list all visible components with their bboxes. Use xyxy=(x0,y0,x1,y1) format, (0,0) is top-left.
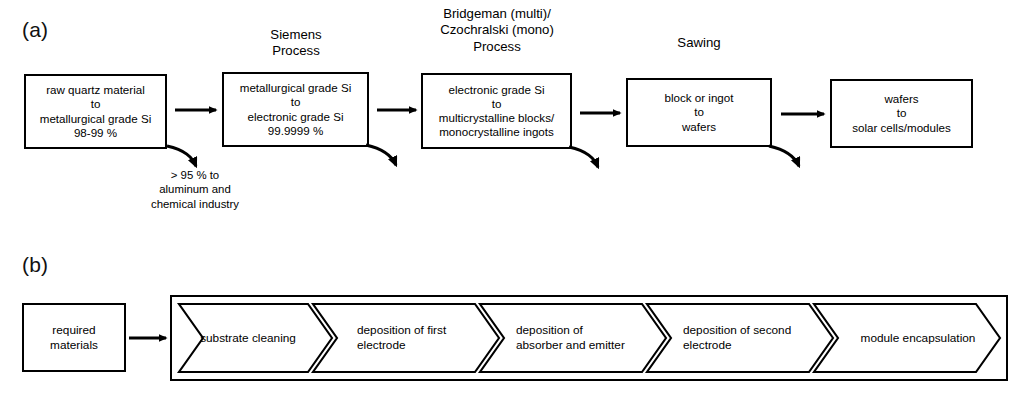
box-line: wafers xyxy=(665,120,734,134)
chevron-label-substrate-cleaning: substrate cleaning xyxy=(183,331,313,346)
annotation-line: aluminum and xyxy=(120,182,270,196)
box-line: metallurgical grade Si xyxy=(240,81,351,95)
chevron-label-second-electrode: deposition of second electrode xyxy=(683,323,848,353)
process-box-raw-quartz: raw quartz material to metallurgical gra… xyxy=(24,74,167,149)
chevron-label-line: module encapsulation xyxy=(848,331,988,346)
box-line: electronic grade Si xyxy=(240,110,351,124)
chevron-label-line: substrate cleaning xyxy=(183,331,313,346)
process-box-electronic-grade: electronic grade Si to multicrystalline … xyxy=(421,73,572,149)
box-line: block or ingot xyxy=(665,91,734,105)
box-line: metallurgical grade Si xyxy=(40,112,151,126)
process-box-wafers: wafers to solar cells/modules xyxy=(830,79,973,148)
panel-b-label: (b) xyxy=(22,254,48,276)
panel-a-label: (a) xyxy=(22,19,48,41)
chevron-label-line: electrode xyxy=(683,338,848,353)
box-line: raw quartz material xyxy=(40,83,151,97)
caption-bridgeman-czochralski-process: Bridgeman (multi)/ Czochralski (mono) Pr… xyxy=(412,6,582,55)
chevron-label-line: absorber and emitter xyxy=(516,338,676,353)
figure-canvas: (a) Siemens Process Bridgeman (multi)/ C… xyxy=(0,0,1025,402)
process-box-metallurgical-grade: metallurgical grade Si to electronic gra… xyxy=(222,72,369,147)
chevron-label-absorber-emitter: deposition of absorber and emitter xyxy=(516,323,676,353)
annotation-byproduct-note: > 95 % to aluminum and chemical industry xyxy=(120,168,270,211)
caption-line: Czochralski (mono) xyxy=(412,22,582,38)
caption-line: Bridgeman (multi)/ xyxy=(412,6,582,22)
chevron-label-line: deposition of first xyxy=(357,323,507,338)
box-line: solar cells/modules xyxy=(852,121,951,135)
box-line: electronic grade Si xyxy=(439,83,554,97)
box-line: to xyxy=(439,97,554,111)
annotation-line: > 95 % to xyxy=(120,168,270,182)
box-line: to xyxy=(665,105,734,119)
box-line: 98-99 % xyxy=(40,126,151,140)
chevron-label-first-electrode: deposition of first electrode xyxy=(357,323,507,353)
chevron-label-line: deposition of second xyxy=(683,323,848,338)
caption-sawing: Sawing xyxy=(626,35,772,51)
caption-line: Process xyxy=(412,39,582,55)
caption-line: Siemens xyxy=(222,27,370,43)
caption-line: Process xyxy=(222,43,370,59)
box-line: multicrystalline blocks/ xyxy=(439,111,554,125)
chevron-label-module-encapsulation: module encapsulation xyxy=(848,331,988,346)
caption-siemens-process: Siemens Process xyxy=(222,27,370,60)
process-box-block-ingot: block or ingot to wafers xyxy=(626,78,772,147)
curved-arrow-down-right-icon xyxy=(366,145,396,165)
curved-arrow-down-right-icon xyxy=(167,146,196,166)
box-line: required xyxy=(50,323,98,338)
curved-arrow-down-right-icon xyxy=(769,146,799,166)
caption-line: Sawing xyxy=(626,35,772,51)
curved-arrow-down-right-icon xyxy=(569,147,598,167)
box-line: materials xyxy=(50,338,98,353)
annotation-line: chemical industry xyxy=(120,197,270,211)
input-box-required-materials: required materials xyxy=(22,303,126,372)
chevron-label-line: electrode xyxy=(357,338,507,353)
box-line: monocrystalline ingots xyxy=(439,125,554,139)
box-line: to xyxy=(240,95,351,109)
box-line: to xyxy=(852,106,951,120)
chevron-label-line: deposition of xyxy=(516,323,676,338)
box-line: wafers xyxy=(852,92,951,106)
box-line: to xyxy=(40,97,151,111)
box-line: 99.9999 % xyxy=(240,124,351,138)
